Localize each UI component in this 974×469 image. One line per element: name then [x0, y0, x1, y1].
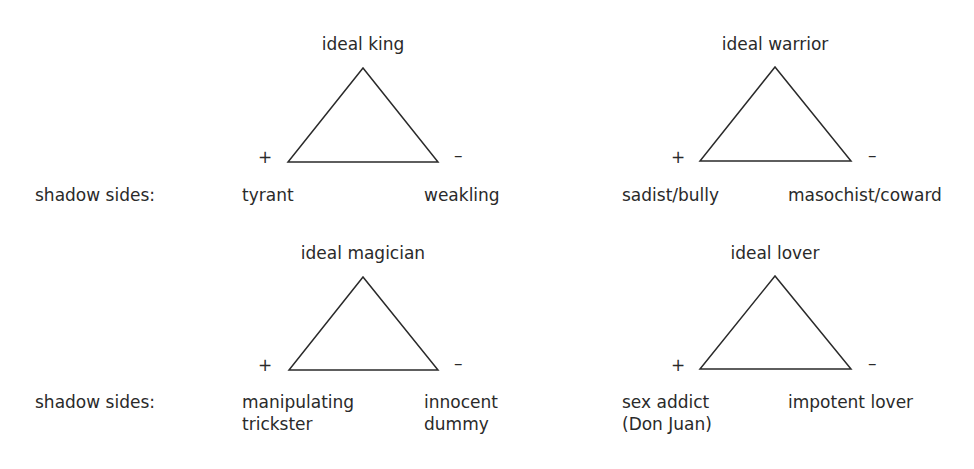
- shadow-positive-lover-line1: sex addict: [622, 392, 709, 413]
- plus-sign: +: [258, 147, 272, 168]
- minus-sign: –: [868, 353, 877, 374]
- title-magician: ideal magician: [301, 243, 425, 264]
- shadow-negative-magician-line2: dummy: [424, 414, 489, 435]
- plus-sign: +: [671, 355, 685, 376]
- minus-sign: –: [868, 145, 877, 166]
- shadow-negative-magician-line1: innocent: [424, 392, 498, 413]
- title-king: ideal king: [322, 34, 405, 55]
- title-warrior: ideal warrior: [722, 34, 829, 55]
- minus-sign: –: [454, 353, 463, 374]
- shadow-positive-lover-line2: (Don Juan): [622, 414, 712, 435]
- plus-sign: +: [258, 355, 272, 376]
- shadow-positive-warrior: sadist/bully: [622, 185, 719, 206]
- shadow-positive-magician-line2: trickster: [242, 414, 313, 435]
- triangle-magician: [289, 277, 438, 370]
- shadow-positive-king: tyrant: [242, 185, 294, 206]
- triangle-king: [288, 68, 438, 162]
- shadow-negative-lover: impotent lover: [788, 392, 913, 413]
- minus-sign: –: [454, 145, 463, 166]
- shadow-negative-warrior: masochist/coward: [788, 185, 942, 206]
- shadow-sides-label: shadow sides:: [35, 185, 155, 206]
- title-lover: ideal lover: [730, 243, 819, 264]
- shadow-negative-king: weakling: [424, 185, 500, 206]
- triangle-warrior: [700, 67, 851, 161]
- triangle-lover: [700, 276, 851, 369]
- plus-sign: +: [671, 147, 685, 168]
- shadow-sides-label: shadow sides:: [35, 392, 155, 413]
- shadow-positive-magician-line1: manipulating: [242, 392, 354, 413]
